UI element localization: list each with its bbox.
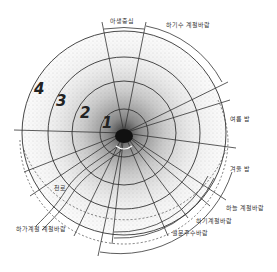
- ring-number-1: 1: [102, 114, 112, 132]
- ring-number-4: 4: [34, 80, 44, 98]
- label-top-sector: 아생중심: [110, 16, 134, 25]
- label-bottom-right-1: 하늘 계절바람: [226, 203, 264, 212]
- ring-number-3: 3: [56, 92, 66, 110]
- label-road: 천로: [54, 183, 66, 192]
- ring-number-2: 2: [80, 104, 90, 122]
- label-bottom-left-arc: 하가계절 계절바람: [16, 224, 66, 233]
- center-core: [115, 129, 133, 143]
- label-right-lower: 겨울 밤: [230, 164, 250, 173]
- label-bottom-right-3: 설문주수바람: [172, 228, 208, 237]
- label-bottom-right-2: 하기계절바람: [196, 216, 232, 225]
- label-top-right-arc: 하기수 계절바람: [166, 20, 210, 29]
- label-right-upper: 여름 밤: [230, 114, 250, 123]
